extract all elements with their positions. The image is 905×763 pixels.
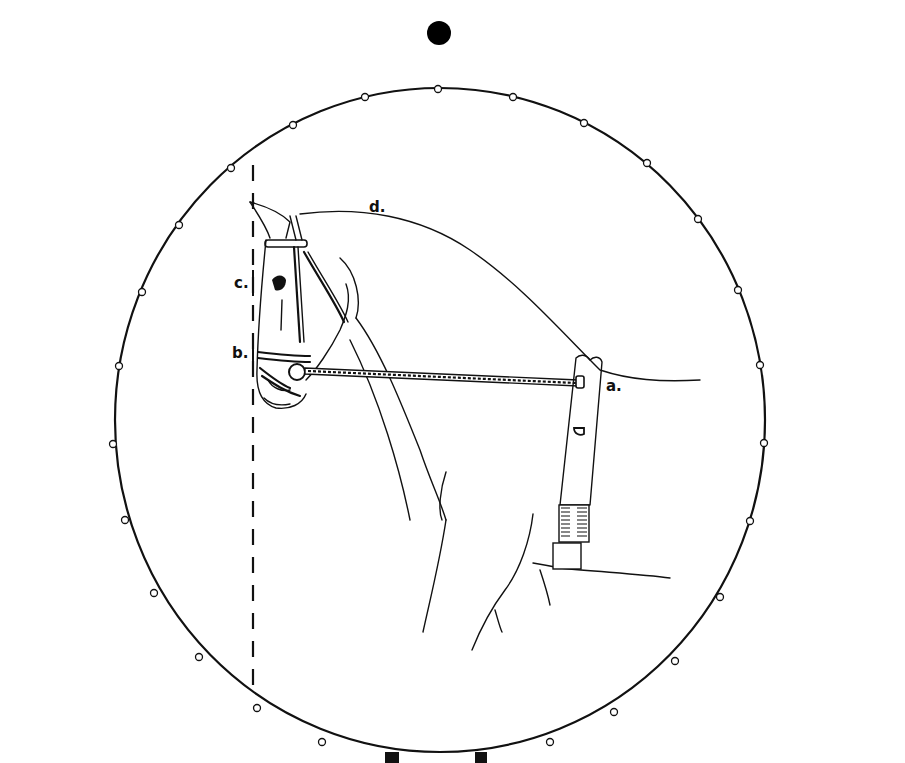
label-c: c. — [234, 274, 249, 292]
label-d: d. — [369, 198, 385, 216]
lunging-circle — [115, 88, 765, 752]
top-marker-dot — [427, 21, 451, 45]
label-b: b. — [232, 344, 248, 362]
horse-side-rein-diagram: a. b. c. d. — [0, 0, 905, 763]
side-rein — [305, 368, 584, 388]
bottom-mark-right — [475, 752, 487, 763]
label-a: a. — [606, 377, 622, 395]
bottom-mark-left — [385, 752, 399, 763]
